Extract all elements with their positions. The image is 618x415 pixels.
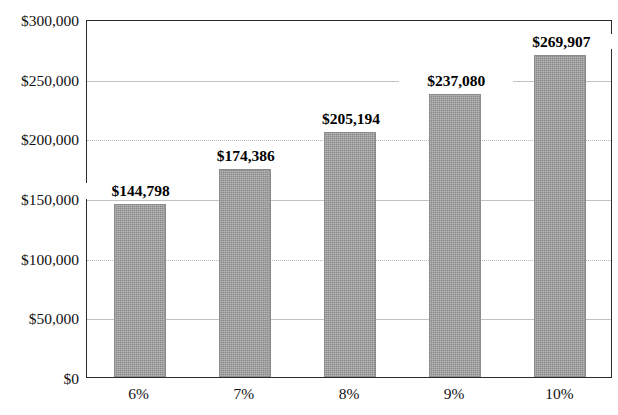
bar-value-label: $205,194 (294, 111, 408, 127)
x-axis-tick-label: 7% (204, 386, 284, 402)
bar-value-label: $144,798 (84, 183, 198, 199)
bar-chart: $0$50,000$100,000$150,000$200,000$250,00… (0, 0, 618, 415)
x-axis-tick-label: 8% (309, 386, 389, 402)
gridline (87, 81, 611, 82)
y-axis-tick-label: $300,000 (0, 13, 79, 29)
bar (429, 94, 481, 377)
bar (534, 55, 586, 377)
y-axis-tick-label: $150,000 (0, 192, 79, 208)
bar-value-label: $269,907 (504, 34, 618, 50)
x-axis-tick-label: 6% (99, 386, 179, 402)
y-axis-tick-label: $200,000 (0, 132, 79, 148)
y-axis-tick-label: $0 (0, 371, 79, 387)
bar (219, 169, 271, 377)
bar (324, 132, 376, 377)
y-axis-tick-label: $100,000 (0, 252, 79, 268)
bar-value-label: $174,386 (189, 148, 303, 164)
bar (114, 204, 166, 377)
x-axis-tick-label: 10% (519, 386, 599, 402)
bar-value-label: $237,080 (399, 73, 513, 89)
plot-area (86, 20, 612, 378)
x-axis-tick-label: 9% (414, 386, 494, 402)
y-axis-tick-label: $50,000 (0, 311, 79, 327)
y-axis-tick-label: $250,000 (0, 73, 79, 89)
